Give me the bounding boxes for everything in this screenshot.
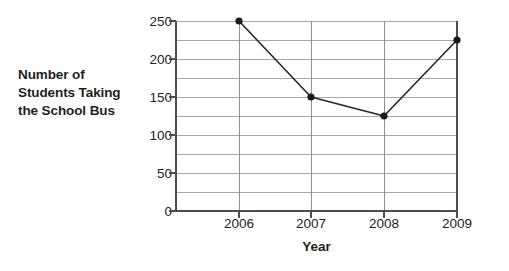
horizontal-gridlines [176,21,457,192]
data-point-2006 [235,17,242,24]
y-axis-ticks [169,21,176,211]
data-point-2007 [307,93,314,100]
data-point-2008 [380,112,387,119]
x-tick-label-2008: 2008 [348,216,420,231]
x-axis-title: Year [176,239,457,254]
x-tick-label-2006: 2006 [203,216,275,231]
x-tick-label-2009: 2009 [421,216,493,231]
data-point-2009 [453,36,460,43]
x-tick-label-2007: 2007 [275,216,347,231]
data-point-markers [235,17,460,119]
data-line-series-1 [239,21,457,116]
line-chart: Number of Students Taking the School Bus… [0,0,509,271]
